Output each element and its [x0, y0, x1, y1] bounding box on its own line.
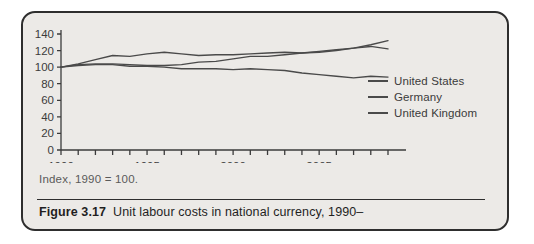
y-tick-label: 40 [41, 111, 54, 123]
y-tick-label: 120 [35, 45, 54, 57]
legend-swatch-icon-united-kingdom [368, 112, 388, 114]
y-axis: 020406080100120140 [35, 28, 61, 156]
legend-swatch-icon-germany [368, 96, 388, 98]
legend-label-germany: Germany [394, 91, 442, 103]
legend-label-united-states: United States [394, 75, 464, 87]
figure-caption: Figure 3.17Unit labour costs in national… [39, 205, 363, 219]
y-tick-label: 20 [41, 127, 54, 139]
x-tick-label: 2005 [306, 160, 332, 163]
legend-label-united-kingdom: United Kingdom [394, 107, 477, 119]
legend-item-united-states[interactable]: United States [368, 73, 498, 89]
x-tick-label: 1995 [134, 160, 160, 163]
y-tick-label: 0 [48, 144, 54, 156]
y-tick-label: 140 [35, 28, 54, 40]
series-line-germany [61, 65, 388, 78]
legend-item-germany[interactable]: Germany [368, 89, 498, 105]
x-tick-label: 1990 [48, 160, 74, 163]
figure-caption-text: Unit labour costs in national currency, … [113, 205, 363, 219]
x-axis: 1990199520002005 [48, 150, 406, 163]
caption-divider [37, 199, 485, 200]
figure-number: Figure 3.17 [39, 205, 106, 219]
legend-swatch-icon-united-states [368, 80, 388, 82]
x-tick-label: 2000 [220, 160, 246, 163]
y-tick-label: 60 [41, 94, 54, 106]
y-tick-label: 80 [41, 78, 54, 90]
figure-card: 020406080100120140 1990199520002005 Unit… [21, 11, 509, 231]
index-note: Index, 1990 = 100. [39, 173, 138, 185]
legend-item-united-kingdom[interactable]: United Kingdom [368, 105, 498, 121]
chart-legend: United States Germany United Kingdom [368, 73, 498, 121]
chart-series-group [61, 41, 388, 78]
y-tick-label: 100 [35, 61, 54, 73]
